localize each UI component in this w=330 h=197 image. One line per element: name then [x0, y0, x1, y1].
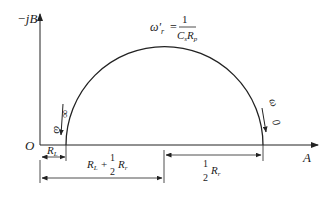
svg-text:ω: ω	[267, 97, 281, 109]
omega-zero-marker: ω 0	[262, 97, 283, 132]
dimension-half-rr: 1 2 Rr	[166, 155, 261, 183]
svg-text:1: 1	[110, 152, 115, 163]
admittance-circle-diagram: −jB A O ω′r = 1 CsRp ∞ ω ω 0 RL RL + 1 2…	[0, 0, 330, 197]
svg-text:0: 0	[270, 118, 283, 128]
dimension-rl-plus-half-rr: RL + 1 2 Rr	[42, 152, 162, 178]
svg-text:=: =	[170, 20, 177, 34]
svg-text:1: 1	[203, 158, 208, 169]
svg-text:2: 2	[203, 172, 208, 183]
svg-text:2: 2	[110, 166, 115, 177]
svg-text:RL: RL	[86, 158, 98, 172]
svg-text:CsRp: CsRp	[177, 29, 198, 43]
origin-label: O	[25, 138, 35, 153]
svg-text:Rr: Rr	[117, 158, 128, 172]
vertical-axis-label: −jB	[17, 11, 37, 26]
svg-text:ω′r: ω′r	[150, 20, 165, 36]
horizontal-axis-label: A	[302, 150, 311, 165]
svg-text:1: 1	[182, 13, 188, 25]
svg-text:Rr: Rr	[210, 164, 221, 178]
svg-text:ω: ω	[52, 126, 64, 134]
dimension-rl: RL	[42, 144, 65, 158]
svg-text:RL: RL	[46, 144, 58, 158]
admittance-semicircle	[66, 47, 263, 145]
resonance-formula: ω′r = 1 CsRp	[150, 13, 198, 43]
svg-text:+: +	[101, 158, 107, 170]
